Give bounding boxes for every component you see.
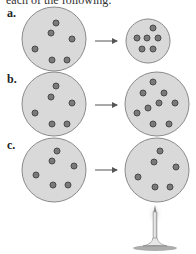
container-c-before — [22, 138, 86, 202]
gas-diagram — [0, 0, 196, 254]
burner-icon — [133, 202, 177, 251]
container-c-after — [125, 138, 189, 202]
